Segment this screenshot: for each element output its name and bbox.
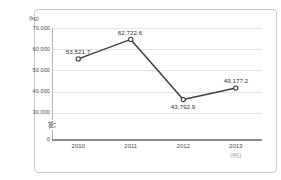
x-tick-2010: 2010 — [53, 143, 103, 149]
data-label-2011: 62,722.6 — [101, 29, 159, 36]
data-label-2013: 49,177.2 — [207, 77, 265, 84]
data-point-2010 — [76, 57, 80, 61]
x-tick-2012: 2012 — [158, 143, 208, 149]
x-tick-2013: 2013 — [211, 143, 261, 149]
data-point-2012 — [181, 97, 185, 101]
data-point-2011 — [129, 37, 133, 41]
data-label-2012: 43,792.9 — [154, 103, 212, 110]
chart-figure: —— —— ─ ─ ─ ── · ··· ·· ··· (kg) 70,000 … — [0, 0, 281, 180]
x-axis-year-note: (연도) — [211, 152, 261, 158]
x-tick-2011: 2011 — [106, 143, 156, 149]
data-label-2010: 53,521.7 — [49, 48, 107, 55]
data-point-2013 — [234, 86, 238, 90]
